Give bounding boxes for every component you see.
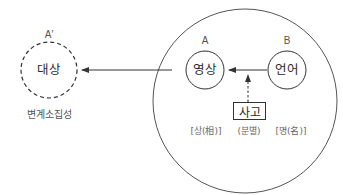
caption-parikalpita: 변계소집성: [27, 110, 72, 120]
box-thought: 사고: [233, 102, 266, 120]
node-object-label: 대상: [37, 64, 61, 77]
label-a-prime: A′: [45, 30, 54, 40]
node-language-label: 언어: [275, 64, 299, 77]
box-thought-label: 사고: [239, 103, 261, 120]
label-a: A: [202, 36, 209, 46]
caption-sang: [상(相)]: [190, 127, 221, 136]
caption-myeong: [명(名)]: [275, 127, 306, 136]
enclosing-circle: [153, 9, 337, 193]
node-image-label: 영상: [193, 64, 217, 77]
caption-discrimination: (분별): [237, 127, 260, 136]
label-b: B: [284, 36, 291, 46]
